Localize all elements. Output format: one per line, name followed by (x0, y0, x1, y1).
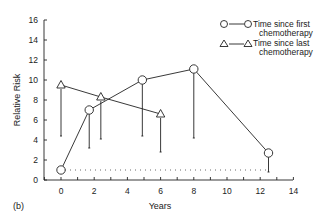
circle-marker-icon (264, 149, 272, 157)
x-tick-label: 0 (59, 186, 64, 196)
legend-label-last-2: chemotherapy (259, 47, 314, 57)
series-line (61, 69, 269, 170)
y-axis-label: Relative Risk (12, 73, 22, 126)
series-triangle (57, 81, 165, 153)
legend-label-first-2: chemotherapy (259, 28, 314, 38)
x-tick-label: 8 (191, 186, 196, 196)
circle-marker-icon (190, 65, 198, 73)
x-tick-label: 14 (289, 186, 299, 196)
series-circle (57, 65, 273, 174)
circle-marker-icon (138, 76, 146, 84)
plot-area (57, 65, 273, 174)
legend: Time since first chemotherapy Time since… (220, 19, 314, 57)
y-tick-label: 10 (29, 75, 39, 85)
series-line (61, 85, 161, 114)
x-axis-label: Years (149, 201, 172, 211)
y-tick-label: 0 (33, 175, 38, 185)
chart: 024681012141602468101214 Relative Risk Y… (0, 0, 334, 222)
legend-circle-icon (245, 21, 252, 28)
y-tick-label: 16 (29, 15, 39, 25)
legend-triangle-icon (220, 40, 228, 47)
legend-circle-icon (221, 21, 228, 28)
y-tick-label: 6 (33, 115, 38, 125)
x-tick-label: 2 (92, 186, 97, 196)
y-tick-label: 12 (29, 55, 39, 65)
x-tick-label: 12 (255, 186, 265, 196)
y-tick-label: 2 (33, 155, 38, 165)
panel-label: (b) (13, 201, 24, 211)
y-tick-label: 8 (33, 95, 38, 105)
triangle-marker-icon (57, 81, 65, 89)
x-tick-label: 4 (125, 186, 130, 196)
y-tick-label: 14 (29, 35, 39, 45)
x-tick-label: 6 (158, 186, 163, 196)
legend-triangle-icon (244, 40, 252, 47)
circle-marker-icon (57, 166, 65, 174)
circle-marker-icon (85, 106, 93, 114)
x-tick-label: 10 (222, 186, 232, 196)
y-tick-label: 4 (33, 135, 38, 145)
